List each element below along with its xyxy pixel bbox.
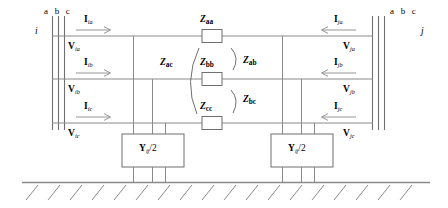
voltage-label-vja: Vja (343, 42, 355, 52)
shunt-symbol-right: Y (288, 143, 295, 153)
current-arrow-ja (322, 27, 357, 34)
impedance-label-zaa: Zaa (200, 15, 213, 25)
current-arrow-ic (76, 114, 111, 121)
current-label-jb: Ijb (334, 58, 343, 68)
impedance-box-zaa (202, 30, 222, 43)
current-label-ic: Iic (84, 102, 93, 112)
current-arrow-ia (76, 27, 111, 34)
current-subscript-ia: ia (88, 18, 93, 25)
impedance-box-zbb (202, 73, 222, 86)
impedance-subscript-zaa: aa (206, 17, 213, 26)
voltage-subscript-via: ia (75, 45, 80, 52)
shunt-symbol-left: Y (139, 143, 146, 153)
voltage-symbol-vjc: V (343, 128, 350, 138)
ground-symbol (22, 183, 430, 201)
voltage-label-vic: Vic (68, 129, 80, 139)
voltage-label-vjc: Vjc (343, 129, 355, 139)
impedance-box-zcc (202, 117, 222, 130)
impedance-label-zab: Zab (243, 56, 257, 66)
right-shunt-drop-lines (283, 36, 315, 134)
shunt-divisor-left: /2 (149, 143, 156, 153)
transmission-line-diagram: a b c i a b c j Iia Iib Iic Via Vib Vic … (0, 0, 448, 208)
left-bus-name: i (35, 27, 38, 37)
voltage-subscript-vjc: jc (350, 132, 355, 139)
series-impedance-boxes (202, 30, 222, 130)
right-phase-header: a b c (390, 7, 418, 16)
right-shunt-ground-lines (283, 167, 315, 182)
left-shunt-drop-lines (134, 36, 166, 134)
shunt-label-right: Yij/2 (288, 144, 306, 154)
voltage-subscript-vic: ic (75, 132, 80, 139)
current-label-jc: Ijc (334, 102, 343, 112)
left-current-arrows (76, 27, 111, 121)
impedance-subscript-zcc: cc (206, 104, 212, 113)
impedance-subscript-zab: ab (249, 58, 257, 67)
arc-zbc (231, 90, 236, 113)
diagram-canvas (0, 0, 448, 208)
arc-zab (231, 48, 236, 70)
impedance-label-zcc: Zcc (200, 102, 212, 112)
voltage-subscript-vjb: jb (350, 88, 355, 95)
left-shunt-ground-lines (134, 167, 166, 182)
current-subscript-jc: jc (338, 105, 343, 112)
impedance-subscript-zbc: bc (249, 97, 256, 106)
shunt-label-left: Yij/2 (139, 144, 157, 154)
current-subscript-jb: jb (338, 61, 343, 68)
ground-hatch-marks (26, 185, 412, 200)
current-subscript-ic: ic (88, 105, 93, 112)
left-phase-header: a b c (44, 7, 72, 16)
current-label-ia: Iia (84, 15, 93, 25)
voltage-label-via: Via (68, 42, 80, 52)
current-label-ib: Iib (84, 58, 93, 68)
impedance-subscript-zbb: bb (206, 60, 214, 69)
voltage-symbol-via: V (68, 41, 75, 51)
voltage-symbol-vic: V (68, 128, 75, 138)
voltage-subscript-vib: ib (75, 88, 80, 95)
arc-zac (190, 48, 199, 114)
current-label-ja: Ija (334, 15, 343, 25)
voltage-label-vib: Vib (68, 85, 80, 95)
current-arrow-jc (322, 114, 357, 121)
voltage-symbol-vja: V (343, 41, 350, 51)
voltage-symbol-vjb: V (343, 84, 350, 94)
right-bus-bars (373, 16, 385, 130)
voltage-label-vjb: Vjb (343, 85, 355, 95)
left-bus-bars (53, 16, 65, 130)
shunt-divisor-right: /2 (298, 143, 305, 153)
current-arrow-jb (322, 70, 357, 77)
current-arrow-ib (76, 70, 111, 77)
impedance-label-zbc: Zbc (243, 95, 256, 105)
impedance-label-zac: Zac (160, 58, 173, 68)
impedance-label-zbb: Zbb (200, 58, 214, 68)
impedance-subscript-zac: ac (166, 60, 173, 69)
voltage-subscript-vja: ja (350, 45, 355, 52)
current-subscript-ja: ja (338, 18, 343, 25)
current-subscript-ib: ib (88, 61, 93, 68)
right-bus-name: j (421, 27, 424, 37)
voltage-symbol-vib: V (68, 84, 75, 94)
